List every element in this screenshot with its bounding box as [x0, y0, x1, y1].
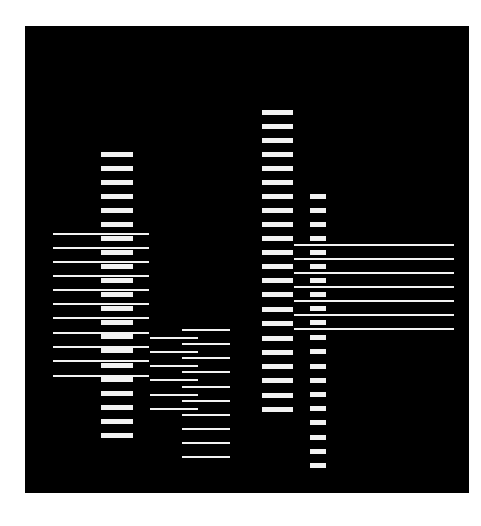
white-line [294, 300, 454, 302]
white-bar [262, 138, 293, 143]
white-bar [101, 208, 133, 213]
white-bar [310, 349, 326, 354]
white-bar [101, 180, 133, 185]
white-line [182, 357, 230, 359]
white-bar [310, 236, 326, 241]
white-line [150, 408, 198, 410]
white-line [294, 258, 454, 260]
white-bar [310, 278, 326, 283]
white-bar [101, 292, 133, 297]
white-bar [262, 180, 293, 185]
white-line [53, 346, 149, 348]
white-bar [101, 348, 133, 353]
white-bar [101, 433, 133, 438]
white-line [182, 456, 230, 458]
white-line [182, 386, 230, 388]
white-bar [310, 378, 326, 383]
white-line [294, 314, 454, 316]
white-line [182, 428, 230, 430]
white-line [150, 379, 198, 381]
white-bar [310, 194, 326, 199]
white-bar [310, 463, 326, 468]
white-line [53, 233, 149, 235]
white-bar [310, 306, 326, 311]
white-bar [262, 124, 293, 129]
white-bar [262, 166, 293, 171]
white-line [150, 365, 198, 367]
white-line [150, 351, 198, 353]
white-line [150, 337, 198, 339]
white-bar [101, 405, 133, 410]
white-bar [101, 306, 133, 311]
white-bar [101, 152, 133, 157]
white-bar [262, 264, 293, 269]
white-bar [262, 307, 293, 312]
white-line [53, 275, 149, 277]
white-line [182, 442, 230, 444]
white-bar [310, 420, 326, 425]
white-line [53, 261, 149, 263]
white-bar [262, 378, 293, 383]
white-bar [262, 250, 293, 255]
white-bar [262, 292, 293, 297]
white-line [294, 272, 454, 274]
white-bar [101, 166, 133, 171]
white-bar [262, 407, 293, 412]
white-bar [310, 335, 326, 340]
white-line [182, 371, 230, 373]
white-bar [310, 406, 326, 411]
white-line [53, 360, 149, 362]
white-bar [262, 393, 293, 398]
white-bar [101, 278, 133, 283]
white-bar [262, 152, 293, 157]
white-bar [262, 194, 293, 199]
white-bar [262, 336, 293, 341]
white-bar [262, 236, 293, 241]
white-bar [101, 419, 133, 424]
white-line [53, 247, 149, 249]
white-bar [101, 391, 133, 396]
white-bar [310, 222, 326, 227]
white-bar [262, 350, 293, 355]
white-line [53, 317, 149, 319]
white-bar [101, 320, 133, 325]
white-bar [310, 320, 326, 325]
white-bar [101, 250, 133, 255]
white-bar [310, 364, 326, 369]
white-line [150, 394, 198, 396]
white-line [182, 400, 230, 402]
white-bar [262, 222, 293, 227]
white-bar [310, 292, 326, 297]
white-bar [101, 363, 133, 368]
white-line [294, 286, 454, 288]
white-bar [310, 250, 326, 255]
white-line [182, 343, 230, 345]
white-line [53, 332, 149, 334]
white-bar [101, 222, 133, 227]
white-bar [262, 278, 293, 283]
white-bar [101, 194, 133, 199]
white-bar [310, 264, 326, 269]
white-bar [262, 110, 293, 115]
white-bar [101, 377, 133, 382]
white-bar [262, 321, 293, 326]
white-bar [101, 264, 133, 269]
white-line [294, 244, 454, 246]
white-bar [310, 435, 326, 440]
white-bar [101, 334, 133, 339]
white-line [53, 289, 149, 291]
white-bar [310, 449, 326, 454]
white-line [182, 414, 230, 416]
white-line [53, 375, 149, 377]
white-bar [262, 364, 293, 369]
white-line [182, 329, 230, 331]
white-bar [310, 208, 326, 213]
white-line [53, 303, 149, 305]
white-bar [101, 236, 133, 241]
white-bar [262, 208, 293, 213]
white-bar [310, 392, 326, 397]
white-line [294, 328, 454, 330]
